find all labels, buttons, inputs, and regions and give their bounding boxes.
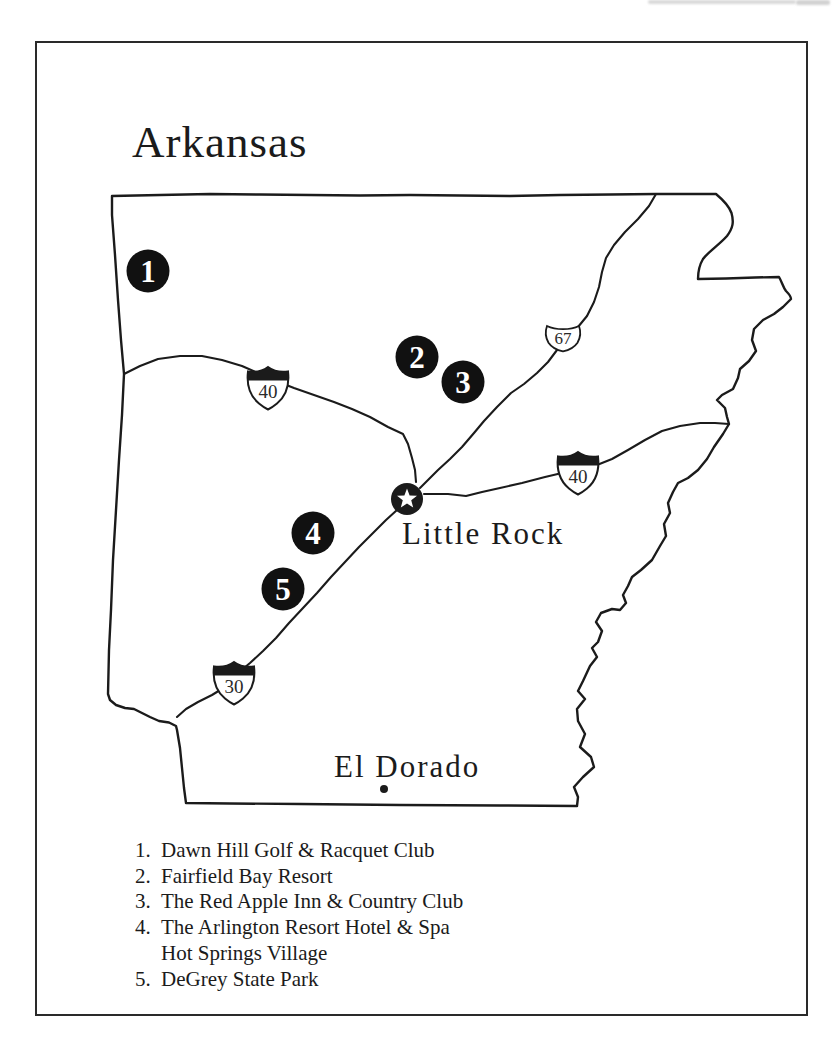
us-route-67-shield-icon: 67 — [546, 326, 580, 351]
legend-item-label: Hot Springs Village — [161, 941, 327, 965]
interstate-40-west-shield-icon: 40 — [248, 367, 289, 410]
legend-item-label: Fairfield Bay Resort — [161, 864, 332, 888]
legend-item-label: The Red Apple Inn & Country Club — [161, 889, 463, 913]
state-outline — [108, 194, 791, 806]
legend-item-continuation: Hot Springs Village — [135, 941, 463, 967]
location-marker-5: 5 — [262, 568, 305, 611]
legend-item-number: 4. — [135, 915, 161, 941]
location-marker-3: 3 — [442, 361, 485, 404]
marker-5-number: 5 — [275, 572, 291, 607]
highway-lines — [124, 194, 729, 717]
legend-item-number: 1. — [135, 838, 161, 864]
legend-item-number: 5. — [135, 967, 161, 993]
location-marker-1: 1 — [127, 250, 170, 293]
marker-3-number: 3 — [455, 365, 471, 400]
location-marker-4: 4 — [292, 512, 335, 555]
highway-i30-line — [177, 510, 397, 717]
marker-4-number: 4 — [305, 516, 321, 551]
city-label-el-dorado: El Dorado — [334, 749, 480, 785]
legend-item-number: 3. — [135, 889, 161, 915]
legend: 1.Dawn Hill Golf & Racquet Club 2.Fairfi… — [135, 838, 463, 992]
interstate-30-shield-icon: 30 — [214, 662, 255, 705]
interstate-40-east-shield-icon: 40 — [558, 452, 599, 495]
marker-2-number: 2 — [409, 340, 425, 375]
interstate-30-number: 30 — [225, 676, 244, 697]
legend-item: 3.The Red Apple Inn & Country Club — [135, 889, 463, 915]
legend-item: 1.Dawn Hill Golf & Racquet Club — [135, 838, 463, 864]
legend-item: 2.Fairfield Bay Resort — [135, 864, 463, 890]
legend-item-number: 2. — [135, 864, 161, 890]
location-marker-2: 2 — [396, 336, 439, 379]
marker-1-number: 1 — [140, 254, 156, 289]
legend-item: 4.The Arlington Resort Hotel & Spa — [135, 915, 463, 941]
legend-item-label: DeGrey State Park — [161, 967, 318, 991]
city-dot-icon — [380, 785, 388, 793]
us-route-67-number: 67 — [555, 329, 573, 348]
interstate-40-east-number: 40 — [569, 466, 588, 487]
legend-item-label: The Arlington Resort Hotel & Spa — [161, 915, 450, 939]
capital-star-icon — [391, 483, 423, 515]
highway-us67-line — [420, 194, 656, 488]
city-label-little-rock: Little Rock — [402, 516, 564, 552]
scanned-map-page: Arkansas 40 40 30 — [0, 0, 839, 1056]
legend-item: 5.DeGrey State Park — [135, 967, 463, 993]
interstate-40-west-number: 40 — [259, 381, 278, 402]
legend-item-label: Dawn Hill Golf & Racquet Club — [161, 838, 435, 862]
